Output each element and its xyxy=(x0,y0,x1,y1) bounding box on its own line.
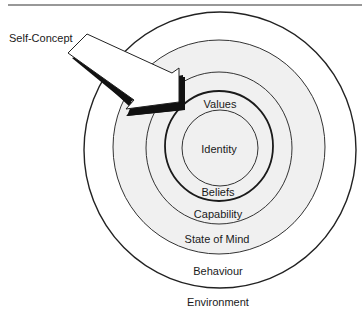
capability-label: Capability xyxy=(194,208,242,220)
self-concept-label: Self-Concept xyxy=(9,32,73,44)
identity-label: Identity xyxy=(201,143,236,155)
environment-label: Environment xyxy=(187,296,249,308)
state-of-mind-label: State of Mind xyxy=(185,233,250,245)
behaviour-label: Behaviour xyxy=(193,265,243,277)
beliefs-label: Beliefs xyxy=(201,186,234,198)
diagram-canvas xyxy=(0,0,362,315)
values-label: Values xyxy=(204,98,237,110)
